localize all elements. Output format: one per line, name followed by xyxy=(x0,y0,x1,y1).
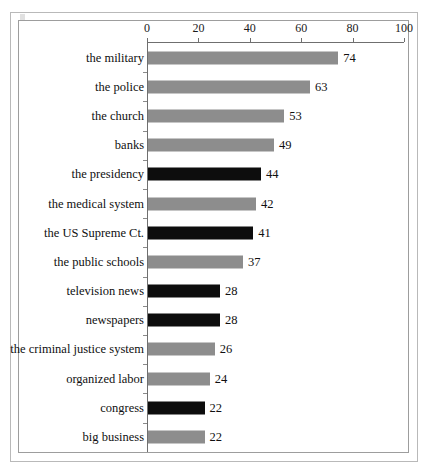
bar-row: big business22 xyxy=(0,422,427,451)
bar-track xyxy=(148,226,253,239)
bar-row: the US Supreme Ct.41 xyxy=(0,218,427,247)
category-label: the military xyxy=(86,50,144,65)
y-axis-tick-mark xyxy=(143,364,147,365)
y-axis-tick-mark xyxy=(143,160,147,161)
y-axis-tick-mark xyxy=(143,306,147,307)
bar-row: the criminal justice system26 xyxy=(0,335,427,364)
bar-row: the public schools37 xyxy=(0,247,427,276)
x-axis-tick-label: 100 xyxy=(395,20,413,36)
bar xyxy=(148,401,205,414)
y-axis-tick-mark xyxy=(143,393,147,394)
bar xyxy=(148,139,274,152)
y-axis-tick-mark xyxy=(143,131,147,132)
category-label: the presidency xyxy=(71,167,144,182)
bar-value-label: 26 xyxy=(220,342,233,357)
x-axis-tick-label: 60 xyxy=(295,20,307,36)
bar-value-label: 53 xyxy=(289,108,302,123)
y-axis-tick-mark xyxy=(143,72,147,73)
bar-track xyxy=(148,168,261,181)
bar xyxy=(148,168,261,181)
x-axis-tick-mark xyxy=(198,38,199,42)
y-axis-tick-mark xyxy=(143,101,147,102)
bar xyxy=(148,197,256,210)
bar-value-label: 63 xyxy=(315,79,328,94)
x-axis-tick-mark xyxy=(353,38,354,42)
bar-row: newspapers28 xyxy=(0,306,427,335)
bar xyxy=(148,431,205,444)
bar-row: the military74 xyxy=(0,43,427,72)
bar xyxy=(148,372,210,385)
bar xyxy=(148,226,253,239)
bar-track xyxy=(148,401,205,414)
x-axis-tick-mark xyxy=(301,38,302,42)
category-label: newspapers xyxy=(86,313,144,328)
bar xyxy=(148,285,220,298)
bar-track xyxy=(148,80,310,93)
bar xyxy=(148,80,310,93)
x-axis-tick-mark xyxy=(250,38,251,42)
bar-track xyxy=(148,372,210,385)
bar-value-label: 28 xyxy=(225,313,238,328)
bar-row: the presidency44 xyxy=(0,160,427,189)
bar-value-label: 22 xyxy=(210,430,223,445)
y-axis-tick-mark xyxy=(143,335,147,336)
bar-track xyxy=(148,285,220,298)
bar-value-label: 24 xyxy=(215,371,228,386)
bar-track xyxy=(148,51,338,64)
bar-value-label: 44 xyxy=(266,167,279,182)
bar xyxy=(148,343,215,356)
bar-chart-figure: 020406080100 the military74the police63t… xyxy=(0,0,427,473)
bar-row: the church53 xyxy=(0,101,427,130)
category-label: the medical system xyxy=(48,196,144,211)
category-label: organized labor xyxy=(66,371,144,386)
bar-value-label: 22 xyxy=(210,400,223,415)
bar xyxy=(148,314,220,327)
bar-value-label: 74 xyxy=(343,50,356,65)
x-axis-tick-label: 80 xyxy=(347,20,359,36)
y-axis-tick-mark xyxy=(143,247,147,248)
x-axis-tick-label: 20 xyxy=(192,20,204,36)
y-axis-tick-mark xyxy=(143,423,147,424)
bar-row: organized labor24 xyxy=(0,364,427,393)
bar-value-label: 42 xyxy=(261,196,274,211)
bar-track xyxy=(148,255,243,268)
bar-rows: the military74the police63the church53ba… xyxy=(0,43,427,452)
x-axis-tick-mark xyxy=(404,38,405,42)
category-label: the public schools xyxy=(54,254,144,269)
bar-value-label: 28 xyxy=(225,284,238,299)
bar-row: the medical system42 xyxy=(0,189,427,218)
y-axis-tick-mark xyxy=(143,218,147,219)
category-label: big business xyxy=(83,430,144,445)
bar xyxy=(148,51,338,64)
bar-track xyxy=(148,343,215,356)
bar-row: banks49 xyxy=(0,131,427,160)
x-axis-tick-label: 40 xyxy=(244,20,256,36)
bar-value-label: 37 xyxy=(248,254,261,269)
bar xyxy=(148,109,284,122)
bar-value-label: 41 xyxy=(258,225,271,240)
bar-row: television news28 xyxy=(0,277,427,306)
bar-row: congress22 xyxy=(0,393,427,422)
category-label: television news xyxy=(67,284,144,299)
bar-track xyxy=(148,139,274,152)
category-label: banks xyxy=(115,138,144,153)
category-label: congress xyxy=(100,400,144,415)
category-label: the US Supreme Ct. xyxy=(44,225,144,240)
bar-track xyxy=(148,314,220,327)
bar-row: the police63 xyxy=(0,72,427,101)
bar-track xyxy=(148,431,205,444)
bar xyxy=(148,255,243,268)
y-axis-tick-mark xyxy=(143,277,147,278)
category-label: the criminal justice system xyxy=(10,342,144,357)
category-label: the police xyxy=(95,79,144,94)
bar-value-label: 49 xyxy=(279,138,292,153)
y-axis-tick-mark xyxy=(143,189,147,190)
x-axis-tick-labels: 020406080100 xyxy=(147,20,404,40)
bar-track xyxy=(148,109,284,122)
category-label: the church xyxy=(92,108,144,123)
bar-track xyxy=(148,197,256,210)
x-axis-tick-label: 0 xyxy=(144,20,150,36)
